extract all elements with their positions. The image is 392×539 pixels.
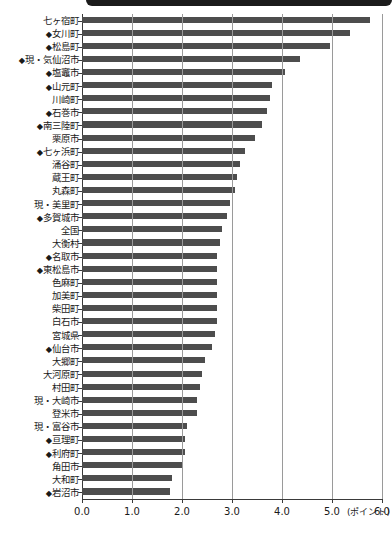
category-label: 登米市 [52,407,79,420]
gridline-6.0 [382,14,383,499]
diamond-icon: ◆ [46,252,52,262]
bar [82,344,212,350]
category-label: ◆東松島市 [37,263,79,276]
y-tick [78,427,82,428]
x-tick-label-4.0: 4.0 [274,506,290,517]
category-label: 現・富谷市 [34,420,79,433]
category-label: 栗原市 [52,132,79,145]
x-tick-2.0 [182,499,183,503]
category-label: 現・美里町 [34,198,79,211]
gridline-2.0 [182,14,183,499]
category-label: ◆松島町 [46,40,79,53]
y-tick [78,86,82,87]
diamond-icon: ◆ [46,82,52,92]
diamond-icon: ◆ [46,29,52,39]
bar [82,187,235,193]
y-tick [78,178,82,179]
category-label: ◆女川町 [46,27,79,40]
bar [82,410,197,416]
category-label: 大衡村 [52,237,79,250]
bar [82,305,217,311]
y-tick [78,322,82,323]
bar [82,121,262,127]
category-label: 全国 [61,224,79,237]
bar [82,43,330,49]
y-tick [78,73,82,74]
diamond-icon: ◆ [37,213,43,223]
category-label: ◆現・気仙沼市 [19,53,79,66]
x-tick-6.0 [382,499,383,503]
gridline-3.0 [232,14,233,499]
x-axis-unit-label: (ポイント) [347,505,390,518]
y-tick [78,34,82,35]
diamond-icon: ◆ [46,344,52,354]
category-label: ◆名取市 [46,250,79,263]
category-label: 現・大崎市 [34,394,79,407]
bar [82,95,270,101]
y-tick [78,283,82,284]
y-tick [78,479,82,480]
category-label: ◆山元町 [46,80,79,93]
x-tick-3.0 [232,499,233,503]
bar [82,279,217,285]
bar [82,213,227,219]
bar [82,174,237,180]
category-label: 丸森町 [52,184,79,197]
category-axis-labels: 七ヶ宿町◆女川町◆松島町◆現・気仙沼市◆塩竈市◆山元町川崎町◆石巻市◆南三陸町栗… [0,14,82,499]
category-label: ◆七ヶ浜町 [37,145,79,158]
bar [82,475,172,481]
y-tick [78,335,82,336]
category-label: 柴田町 [52,302,79,315]
y-tick [78,388,82,389]
bar [82,397,197,403]
bar [82,357,205,363]
diamond-icon: ◆ [37,147,43,157]
bar [82,148,245,154]
category-label: 色麻町 [52,276,79,289]
x-tick-label-0.0: 0.0 [74,506,90,517]
bar [82,371,202,377]
diamond-icon: ◆ [46,108,52,118]
y-tick [78,492,82,493]
diamond-icon: ◆ [46,488,52,498]
bar [82,135,255,141]
gridline-4.0 [282,14,283,499]
category-label: 宮城県 [52,329,79,342]
category-label: ◆利府町 [46,447,79,460]
x-tick-label-3.0: 3.0 [224,506,240,517]
bar [82,292,217,298]
category-label: ◆岩沼市 [46,486,79,499]
bar [82,30,350,36]
category-label: 大和町 [52,473,79,486]
diamond-icon: ◆ [19,55,25,65]
y-tick [78,270,82,271]
gridline-1.0 [132,14,133,499]
y-tick [78,414,82,415]
diamond-icon: ◆ [46,449,52,459]
bar [82,56,300,62]
category-label: 涌谷町 [52,158,79,171]
gridline-5.0 [332,14,333,499]
header-band [86,0,392,6]
bar [82,226,222,232]
y-tick [78,374,82,375]
diamond-icon: ◆ [37,265,43,275]
x-tick-5.0 [332,499,333,503]
bar [82,423,187,429]
y-tick [78,243,82,244]
y-tick [78,401,82,402]
diamond-icon: ◆ [46,435,52,445]
category-label: 川崎町 [52,93,79,106]
category-label: 大河原町 [43,368,79,381]
bar [82,488,170,494]
category-label: ◆亘理町 [46,433,79,446]
x-tick-1.0 [132,499,133,503]
category-label: 角田市 [52,460,79,473]
diamond-icon: ◆ [37,121,43,131]
category-label: 加美町 [52,289,79,302]
bar [82,200,230,206]
category-label: ◆塩竈市 [46,66,79,79]
y-tick [78,21,82,22]
bar [82,318,217,324]
y-tick [78,348,82,349]
